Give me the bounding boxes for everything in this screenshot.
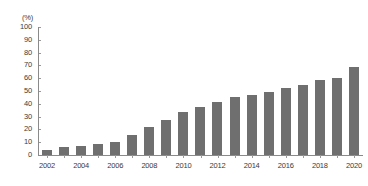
x-tick-mark [218, 155, 219, 158]
x-tick-mark [149, 155, 150, 158]
x-tick-mark [132, 155, 133, 158]
y-tick-label: 0 [28, 150, 32, 159]
x-tick-mark [337, 155, 338, 158]
y-tick-label: 30 [24, 112, 32, 121]
bar-slot [93, 27, 103, 155]
x-tick-mark [286, 155, 287, 158]
y-tick-label: 60 [24, 73, 32, 82]
bar [281, 88, 291, 155]
x-tick-mark [354, 155, 355, 158]
bar [178, 112, 188, 155]
bar-slot [212, 27, 222, 155]
bar [59, 147, 69, 155]
x-axis-ticks [38, 155, 363, 159]
bar-slot [76, 27, 86, 155]
x-tick-mark [235, 155, 236, 158]
x-tick-label: 2020 [346, 161, 362, 171]
bar-slot [281, 27, 291, 155]
bar-slot [195, 27, 205, 155]
bar [247, 95, 257, 155]
bar [127, 135, 137, 155]
bar-slot [127, 27, 137, 155]
x-tick-label: 2014 [244, 161, 260, 171]
bar-slot [298, 27, 308, 155]
x-tick-mark [47, 155, 48, 158]
x-tick-label: 2008 [141, 161, 157, 171]
y-tick-label: 70 [24, 60, 32, 69]
x-tick-mark [166, 155, 167, 158]
bar-slot [42, 27, 52, 155]
bar-series [38, 27, 363, 155]
x-tick-mark [269, 155, 270, 158]
x-tick-mark [303, 155, 304, 158]
bar [212, 102, 222, 155]
bar-slot [178, 27, 188, 155]
y-axis-unit-label: (%) [22, 13, 33, 22]
bar [315, 80, 325, 155]
y-tick-label: 50 [24, 86, 32, 95]
x-tick-mark [64, 155, 65, 158]
x-tick-mark [81, 155, 82, 158]
bar-slot [247, 27, 257, 155]
x-tick-label: 2006 [107, 161, 123, 171]
x-tick-label: 2012 [210, 161, 226, 171]
bar [332, 78, 342, 155]
bar [230, 97, 240, 155]
bar-slot [349, 27, 359, 155]
bar [298, 85, 308, 155]
x-tick-label: 2010 [175, 161, 191, 171]
bar-slot [230, 27, 240, 155]
bar [349, 67, 359, 155]
bar [76, 146, 86, 155]
bar-slot [161, 27, 171, 155]
y-tick-label: 20 [24, 124, 32, 133]
bar-slot [332, 27, 342, 155]
bar-slot [59, 27, 69, 155]
bar [264, 92, 274, 155]
bar [110, 142, 120, 155]
x-tick-label: 2016 [278, 161, 294, 171]
x-tick-mark [320, 155, 321, 158]
y-tick-label: 100 [20, 22, 32, 31]
y-tick-label: 10 [24, 137, 32, 146]
y-tick-label: 90 [24, 35, 32, 44]
y-tick-label: 80 [24, 48, 32, 57]
bar-slot [315, 27, 325, 155]
x-tick-label: 2004 [73, 161, 89, 171]
bar [195, 107, 205, 155]
bar [144, 127, 154, 155]
y-tick-label: 40 [24, 99, 32, 108]
x-tick-mark [252, 155, 253, 158]
bar-chart: (%) 0102030405060708090100 2002200420062… [0, 0, 368, 186]
bar [93, 144, 103, 155]
x-tick-mark [183, 155, 184, 158]
bar-slot [264, 27, 274, 155]
bar-slot [110, 27, 120, 155]
x-axis-labels: 2002200420062008201020122014201620182020 [38, 161, 363, 177]
bar [161, 120, 171, 155]
x-tick-label: 2018 [312, 161, 328, 171]
bar-slot [144, 27, 154, 155]
plot-area [38, 27, 363, 155]
x-tick-mark [98, 155, 99, 158]
x-tick-mark [201, 155, 202, 158]
x-tick-label: 2002 [39, 161, 55, 171]
x-tick-mark [115, 155, 116, 158]
